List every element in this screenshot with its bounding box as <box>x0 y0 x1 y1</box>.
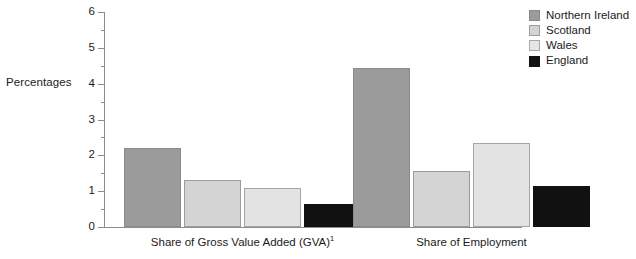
y-tick-minor <box>101 66 104 67</box>
bar <box>124 148 181 227</box>
group-label-footnote: 1 <box>330 234 334 243</box>
group-label: Share of Gross Value Added (GVA)1 <box>151 236 334 248</box>
bar-chart: Percentages 0123456 Share of Gross Value… <box>0 0 636 259</box>
legend-item: Wales <box>529 38 633 53</box>
legend-swatch-icon <box>529 10 540 21</box>
legend: Northern IrelandScotlandWalesEngland <box>529 8 633 69</box>
bar <box>533 186 590 227</box>
y-tick-label: 3 <box>89 114 95 126</box>
y-tick-major <box>98 227 104 228</box>
legend-swatch-icon <box>529 25 540 36</box>
legend-item-label: Scotland <box>546 25 591 37</box>
x-axis-line <box>104 227 522 228</box>
bar <box>473 143 530 227</box>
legend-swatch-icon <box>529 56 540 67</box>
y-tick-label: 5 <box>89 42 95 54</box>
legend-item: England <box>529 54 633 69</box>
y-tick-major <box>98 48 104 49</box>
group-label-text: Share of Employment <box>416 236 527 248</box>
legend-item: Scotland <box>529 23 633 38</box>
legend-item-label: Northern Ireland <box>546 10 629 22</box>
y-tick-minor <box>101 102 104 103</box>
plot-area: 0123456 <box>104 12 522 227</box>
bar <box>244 188 301 227</box>
y-tick-label: 4 <box>89 78 95 90</box>
y-tick-label: 1 <box>89 185 95 197</box>
y-tick-label: 6 <box>89 6 95 18</box>
y-tick-minor <box>101 137 104 138</box>
y-tick-major <box>98 155 104 156</box>
legend-item-label: Wales <box>546 40 578 52</box>
bar <box>184 180 241 227</box>
y-tick-major <box>98 84 104 85</box>
bar <box>353 68 410 227</box>
y-tick-minor <box>101 209 104 210</box>
group-label: Share of Employment <box>416 236 527 248</box>
y-tick-label: 2 <box>89 150 95 162</box>
legend-swatch-icon <box>529 40 540 51</box>
y-tick-minor <box>101 173 104 174</box>
y-tick-major <box>98 120 104 121</box>
y-axis-title: Percentages <box>6 76 98 88</box>
y-tick-major <box>98 12 104 13</box>
y-axis-line <box>104 12 105 227</box>
legend-item: Northern Ireland <box>529 8 633 23</box>
y-tick-minor <box>101 30 104 31</box>
y-tick-label: 0 <box>89 221 95 233</box>
legend-item-label: England <box>546 55 588 67</box>
group-label-text: Share of Gross Value Added (GVA) <box>151 236 330 248</box>
y-tick-major <box>98 191 104 192</box>
bar <box>413 171 470 227</box>
